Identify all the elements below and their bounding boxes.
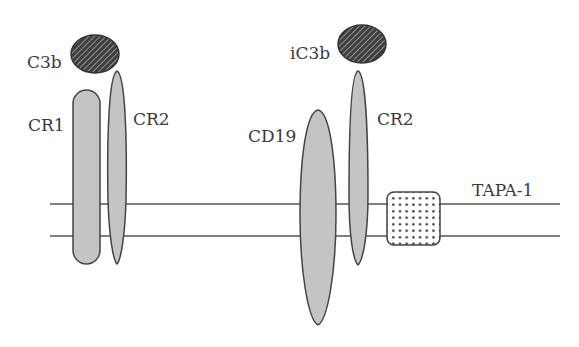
ic3b-label: iC3b [290, 43, 330, 63]
c3b-ligand [71, 35, 119, 73]
cd19-receptor [300, 110, 336, 325]
cr2-right-label: CR2 [377, 109, 414, 129]
ic3b-ligand [338, 25, 386, 63]
tapa1-protein [387, 192, 440, 245]
c3b-label: C3b [27, 52, 62, 72]
cr2-right-receptor [349, 71, 368, 265]
cr1-label: CR1 [28, 115, 65, 135]
tapa1-label: TAPA-1 [472, 180, 533, 200]
cd19-label: CD19 [248, 126, 296, 146]
complement-receptor-diagram: C3b CR1 CR2 iC3b CD19 CR2 TAPA-1 [0, 0, 579, 347]
cr2-left-receptor [108, 71, 127, 264]
cr2-left-label: CR2 [133, 109, 170, 129]
cr1-receptor [73, 90, 100, 264]
